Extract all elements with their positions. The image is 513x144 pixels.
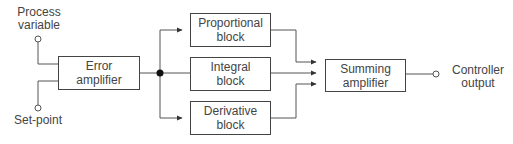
derivative-line2: block <box>216 118 244 132</box>
proportional-line1: Proportional <box>198 16 263 30</box>
error-amplifier-line1: Error <box>86 59 113 73</box>
derivative-line1: Derivative <box>204 104 257 118</box>
controller-output-line2: output <box>446 77 510 90</box>
set-point-terminal <box>35 105 41 111</box>
integral-line1: Integral <box>210 60 250 74</box>
controller-output-terminal <box>433 71 439 77</box>
derivative-block: Derivative block <box>190 101 271 135</box>
error-amplifier-line2: amplifier <box>76 73 121 87</box>
process-variable-label: Process variable <box>12 6 66 32</box>
controller-output-label: Controller output <box>446 64 510 90</box>
summing-amplifier-line2: amplifier <box>343 76 388 90</box>
set-point-wire <box>38 81 58 107</box>
proportional-out-wire <box>271 30 316 62</box>
process-variable-wire <box>38 42 58 64</box>
error-amplifier-block: Error amplifier <box>58 56 140 90</box>
summing-amplifier-line1: Summing <box>340 62 391 76</box>
summing-amplifier-block: Summing amplifier <box>325 59 406 92</box>
set-point-label: Set-point <box>10 114 66 127</box>
process-variable-line2: variable <box>12 19 66 32</box>
junction-dot <box>157 70 164 77</box>
proportional-block: Proportional block <box>190 13 271 47</box>
derivative-out-wire <box>271 84 316 118</box>
process-variable-terminal <box>35 36 41 42</box>
integral-block: Integral block <box>190 57 271 91</box>
proportional-line2: block <box>216 30 244 44</box>
integral-line2: block <box>216 74 244 88</box>
